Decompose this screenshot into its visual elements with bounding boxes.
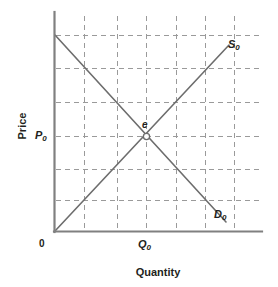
equilibrium-label: e: [142, 119, 148, 130]
equilibrium-marker: [143, 133, 149, 139]
q0-symbol: Q: [138, 238, 147, 250]
supply-demand-figure: Price Quantity 0 P0 Q0 S0 D0 e: [0, 0, 278, 287]
q0-label: Q0: [138, 238, 151, 250]
vertical-gridlines: [85, 16, 235, 231]
supply-subscript: 0: [235, 43, 239, 52]
y-axis-title: Price: [16, 96, 28, 156]
q0-subscript: 0: [147, 243, 151, 252]
demand-symbol: D: [214, 208, 222, 220]
horizontal-gridlines: [56, 36, 262, 201]
demand-curve-label: D0: [214, 208, 226, 220]
p0-subscript: 0: [42, 134, 46, 143]
demand-curve: [55, 35, 226, 222]
p0-label: P0: [35, 129, 47, 141]
supply-curve: [55, 45, 229, 231]
supply-curve-label: S0: [228, 38, 240, 50]
origin-label: 0: [39, 238, 45, 249]
x-axis-title: Quantity: [118, 266, 198, 278]
demand-subscript: 0: [222, 213, 226, 222]
